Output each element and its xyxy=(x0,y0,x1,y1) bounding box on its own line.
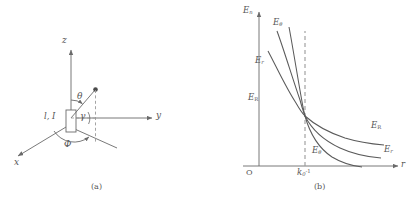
x-tick-k0-inverse: k0-1 xyxy=(297,168,311,178)
chart-y-axis-label: EEn xyxy=(243,6,253,16)
curve-label-right-E-R: ER xyxy=(371,121,381,131)
panel-b-caption: (b) xyxy=(314,182,325,191)
curve-label-below-E-theta: Eθ xyxy=(312,146,321,156)
curve-label-left-E-theta: Eθ xyxy=(273,18,282,28)
curve-label-left-E-theta-sub: θ xyxy=(279,21,282,27)
curve-E-theta xyxy=(289,27,362,167)
curve-label-left-E-R-sub: R xyxy=(254,96,258,102)
curve-label-right-E-r-sub: r xyxy=(390,148,393,154)
chart-x-axis-label: r xyxy=(401,160,405,169)
curve-label-left-E-r-sub: r xyxy=(261,59,264,65)
curve-label-left-E-r: Er xyxy=(255,56,264,66)
curve-label-right-E-R-sub: R xyxy=(377,124,381,130)
curve-label-below-E-theta-sub: θ xyxy=(318,149,321,155)
x-tick-k0-inverse-sup: -1 xyxy=(306,168,311,174)
curve-label-left-E-R: ER xyxy=(248,93,258,103)
chart-y-axis-label-sub: n xyxy=(249,9,252,15)
panel-b-field-decay-chart: EEn r O k0-1 Eθ Er ER ER Er Eθ (b) xyxy=(0,0,413,202)
curve-label-right-E-r: Er xyxy=(384,145,393,155)
chart-origin-label: O xyxy=(246,169,253,177)
curve-E-R xyxy=(268,51,384,145)
panel-b-svg xyxy=(0,0,413,202)
